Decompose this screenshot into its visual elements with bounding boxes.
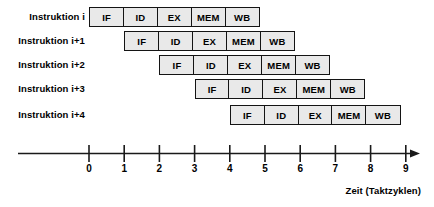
pipeline-stage-box: MEM bbox=[296, 79, 331, 99]
pipeline-stage-box: ID bbox=[193, 55, 228, 75]
pipeline-stage-box: EX bbox=[227, 55, 262, 75]
instruction-row: Instruktion i+4IFIDEXMEMWB bbox=[0, 105, 434, 125]
pipeline-stage-box: ID bbox=[158, 31, 193, 51]
pipeline-stage-strip: IFIDEXMEMWB bbox=[195, 79, 366, 99]
axis-tick-label: 8 bbox=[360, 163, 382, 174]
instruction-row: Instruktion i+3IFIDEXMEMWB bbox=[0, 79, 434, 99]
pipeline-stage-box: EX bbox=[262, 79, 297, 99]
axis-tick-label: 5 bbox=[254, 163, 276, 174]
axis-tick-label: 9 bbox=[395, 163, 417, 174]
axis-arrowhead bbox=[410, 150, 420, 158]
instruction-row-label: Instruktion i+3 bbox=[0, 79, 85, 99]
pipeline-stage-box: IF bbox=[195, 79, 230, 99]
pipeline-stage-box: EX bbox=[298, 105, 333, 125]
pipeline-stage-box: MEM bbox=[331, 105, 366, 125]
axis-tick-label: 4 bbox=[219, 163, 241, 174]
instruction-row: Instruktion i+1IFIDEXMEMWB bbox=[0, 31, 434, 51]
instruction-row-label: Instruktion i+4 bbox=[0, 105, 85, 125]
axis-caption-label: Zeit (Taktzyklen) bbox=[346, 185, 421, 196]
pipeline-stage-box: WB bbox=[330, 79, 365, 99]
pipeline-stage-strip: IFIDEXMEMWB bbox=[124, 31, 295, 51]
pipeline-stage-box: IF bbox=[89, 7, 124, 27]
pipeline-stage-box: WB bbox=[225, 7, 260, 27]
pipeline-stage-box: ID bbox=[228, 79, 263, 99]
pipeline-stage-box: MEM bbox=[226, 31, 261, 51]
instruction-row-label: Instruktion i bbox=[0, 7, 85, 27]
pipeline-diagram: Instruktion iIFIDEXMEMWBInstruktion i+1I… bbox=[0, 0, 434, 207]
pipeline-stage-box: WB bbox=[295, 55, 330, 75]
axis-tick-label: 1 bbox=[113, 163, 135, 174]
pipeline-stage-strip: IFIDEXMEMWB bbox=[159, 55, 330, 75]
pipeline-stage-box: WB bbox=[260, 31, 295, 51]
axis-tick-label: 6 bbox=[289, 163, 311, 174]
pipeline-stage-box: WB bbox=[365, 105, 400, 125]
pipeline-stage-box: ID bbox=[264, 105, 299, 125]
pipeline-stage-strip: IFIDEXMEMWB bbox=[89, 7, 260, 27]
axis-tick-label: 7 bbox=[324, 163, 346, 174]
pipeline-stage-box: IF bbox=[159, 55, 194, 75]
pipeline-stage-box: MEM bbox=[261, 55, 296, 75]
axis-tick-label: 0 bbox=[78, 163, 100, 174]
axis-tick-label: 2 bbox=[148, 163, 170, 174]
pipeline-stage-box: EX bbox=[157, 7, 192, 27]
pipeline-stage-box: EX bbox=[192, 31, 227, 51]
pipeline-stage-box: MEM bbox=[191, 7, 226, 27]
pipeline-stage-box: IF bbox=[124, 31, 159, 51]
instruction-row-label: Instruktion i+2 bbox=[0, 55, 85, 75]
axis-tick-label: 3 bbox=[184, 163, 206, 174]
axis-ticks bbox=[89, 145, 406, 162]
instruction-row: Instruktion iIFIDEXMEMWB bbox=[0, 7, 434, 27]
instruction-row-label: Instruktion i+1 bbox=[0, 31, 85, 51]
pipeline-stage-strip: IFIDEXMEMWB bbox=[230, 105, 401, 125]
instruction-row: Instruktion i+2IFIDEXMEMWB bbox=[0, 55, 434, 75]
pipeline-stage-box: ID bbox=[123, 7, 158, 27]
pipeline-stage-box: IF bbox=[230, 105, 265, 125]
